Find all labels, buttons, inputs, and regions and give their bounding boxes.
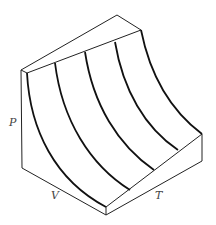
box-top-back-edge	[21, 15, 141, 70]
surface-bottom-edge	[106, 134, 202, 207]
p-axis-label: P	[8, 116, 17, 129]
pvt-surface-diagram: P V T	[0, 0, 216, 225]
p-axis-edge	[21, 70, 22, 168]
isotherm-4	[115, 42, 178, 150]
isotherm-5	[141, 30, 202, 134]
t-axis-label: T	[155, 189, 164, 202]
surface-top-edge-front	[27, 30, 141, 73]
surface-top-edge	[21, 70, 27, 73]
isotherm-3	[85, 52, 154, 170]
v-axis-label: V	[51, 189, 60, 202]
v-axis-edge	[22, 168, 106, 215]
isotherm-1	[27, 73, 106, 207]
